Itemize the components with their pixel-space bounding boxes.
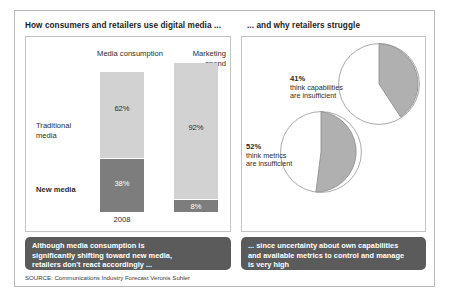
row-label-new-media: New media bbox=[36, 185, 76, 195]
bar-value-mc-traditional: 62% bbox=[100, 104, 144, 113]
callout-left-line2: significantly shifting toward new media, bbox=[32, 251, 224, 261]
callout-left: Although media consumption is significan… bbox=[25, 237, 231, 270]
row-label-traditional-media: Traditional media bbox=[36, 121, 71, 140]
slide-frame: How consumers and retailers use digital … bbox=[14, 10, 435, 287]
headline-left: How consumers and retailers use digital … bbox=[25, 21, 221, 30]
axis-label-year: 2008 bbox=[100, 215, 144, 224]
bar-segment-new-media-consumption[interactable]: 38% bbox=[100, 159, 144, 212]
pie-chart-panel: 41% think capabilities are insufficient … bbox=[241, 36, 426, 232]
row-label-traditional-line2: media bbox=[36, 131, 71, 141]
pie-label-capabilities-line2: are insufficient bbox=[290, 92, 343, 101]
bar-value-ms-traditional: 92% bbox=[174, 123, 218, 132]
pie-label-metrics: 52% think metrics are insufficient bbox=[246, 143, 292, 169]
callout-right-line2: and available metrics to control and man… bbox=[248, 251, 419, 261]
headline-right: ... and why retailers struggle bbox=[247, 21, 360, 30]
callout-right: ... since uncertainty about own capabili… bbox=[241, 237, 426, 270]
callout-left-line3: retailers don't react accordingly ... bbox=[32, 260, 224, 270]
callout-right-line3: is very high bbox=[248, 260, 419, 270]
bar-value-ms-new: 8% bbox=[174, 202, 218, 211]
column-header-marketing-spend-line1: Marketing bbox=[176, 49, 226, 59]
row-label-traditional-line1: Traditional bbox=[36, 121, 71, 131]
bar-chart-panel: Media consumption Marketing spend Tradit… bbox=[25, 36, 231, 232]
pie-percent-capabilities: 41% bbox=[290, 74, 305, 83]
bar-media-consumption[interactable]: 62% 38% bbox=[100, 72, 144, 212]
bar-segment-traditional-marketing-spend[interactable]: 92% bbox=[174, 63, 218, 199]
callout-left-line1: Although media consumption is bbox=[32, 241, 224, 251]
pie-percent-metrics: 52% bbox=[246, 142, 261, 151]
source-note: SOURCE: Communications Industry Forecast… bbox=[25, 274, 190, 281]
column-header-media-consumption: Media consumption bbox=[82, 49, 178, 59]
pie-label-metrics-line2: are insufficient bbox=[246, 160, 292, 169]
bar-marketing-spend[interactable]: 92% 8% bbox=[174, 63, 218, 212]
bar-value-mc-new: 38% bbox=[100, 179, 144, 188]
pie-label-capabilities: 41% think capabilities are insufficient bbox=[290, 75, 343, 101]
callout-right-line1: ... since uncertainty about own capabili… bbox=[248, 241, 419, 251]
bar-segment-new-marketing-spend[interactable]: 8% bbox=[174, 200, 218, 212]
bar-segment-traditional-media-consumption[interactable]: 62% bbox=[100, 72, 144, 158]
